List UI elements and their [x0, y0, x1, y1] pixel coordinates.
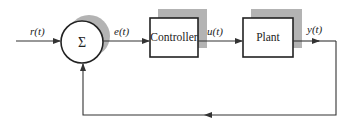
controller-block: Controller	[150, 18, 198, 57]
controller-label: Controller	[150, 31, 197, 43]
sigma-symbol: Σ	[78, 35, 86, 50]
plant-block: Plant	[243, 18, 293, 57]
plant-label: Plant	[256, 31, 280, 43]
block-diagram: Σ Controller Plant r(t) e(t) u(t) y(t)	[0, 0, 351, 125]
error-signal-label: e(t)	[114, 25, 130, 38]
output-signal-label: y(t)	[306, 23, 323, 36]
control-signal-label: u(t)	[207, 25, 223, 38]
feedback-path	[83, 41, 336, 115]
summing-junction: Σ	[61, 21, 103, 63]
reference-signal-label: r(t)	[30, 25, 45, 38]
feedback-direction-arrow	[204, 112, 212, 118]
